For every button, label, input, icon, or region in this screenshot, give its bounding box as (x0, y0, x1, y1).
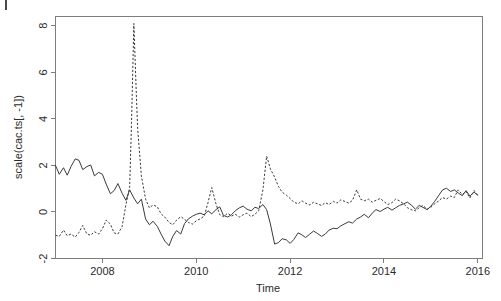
y-axis-title: scale(cac.ts[, -1]) (12, 95, 24, 179)
y-tick-label: 6 (37, 69, 49, 75)
x-tick-label: 2014 (372, 265, 396, 277)
series-line-dashed (56, 23, 478, 237)
y-tick-label: 2 (37, 162, 49, 168)
x-axis-title: Time (256, 282, 280, 294)
y-tick-label: 4 (37, 116, 49, 122)
x-tick-label: 2016 (466, 265, 490, 277)
x-tick-label: 2008 (90, 265, 114, 277)
y-axis-ticks: -202468 (37, 23, 55, 264)
plot-svg: -202468 20082010201220142016 scale(cac.t… (0, 0, 501, 301)
plot-border (56, 17, 483, 259)
x-tick-label: 2010 (184, 265, 208, 277)
y-tick-label: 8 (37, 23, 49, 29)
crop-mark-icon (5, 0, 7, 10)
plot-frame (56, 17, 483, 259)
x-axis-ticks: 20082010201220142016 (90, 259, 490, 277)
chart-figure: -202468 20082010201220142016 scale(cac.t… (0, 0, 501, 301)
y-tick-label: -2 (37, 254, 49, 264)
y-tick-label: 0 (37, 209, 49, 215)
x-tick-label: 2012 (278, 265, 302, 277)
crop-mark-group (5, 0, 7, 10)
data-series-group (56, 23, 478, 245)
